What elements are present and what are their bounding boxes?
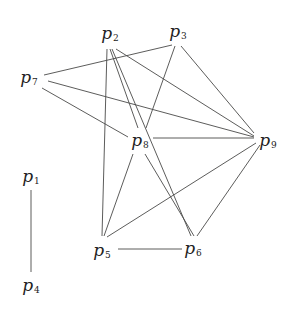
- graph-diagram: [0, 0, 295, 309]
- node-p1: p1: [22, 168, 40, 186]
- node-subscript: 2: [113, 33, 119, 43]
- node-letter: p: [93, 240, 104, 260]
- node-letter: p: [20, 67, 31, 87]
- node-letter: p: [259, 130, 270, 150]
- edge-p2-p9: [116, 49, 254, 136]
- edge-p3-p8: [146, 46, 175, 128]
- node-letter: p: [184, 238, 195, 258]
- node-p2: p2: [101, 25, 119, 43]
- node-letter: p: [131, 130, 142, 150]
- node-subscript: 7: [32, 77, 38, 87]
- node-p9: p9: [259, 132, 277, 150]
- node-letter: p: [169, 21, 180, 41]
- node-subscript: 8: [143, 140, 149, 150]
- node-subscript: 6: [196, 248, 202, 258]
- node-subscript: 9: [271, 140, 277, 150]
- node-p8: p8: [131, 132, 149, 150]
- edge-p6-p9: [197, 145, 260, 236]
- edge-p2-p8: [110, 49, 138, 128]
- edge-p7-p8: [42, 88, 128, 137]
- edge-p2-p6: [112, 49, 191, 236]
- edge-p7-p3: [44, 45, 172, 75]
- node-p3: p3: [169, 23, 187, 41]
- node-p7: p7: [20, 69, 38, 87]
- edge-p2-p5: [102, 49, 107, 236]
- node-subscript: 3: [181, 31, 187, 41]
- node-subscript: 1: [34, 176, 40, 186]
- node-subscript: 5: [105, 250, 111, 260]
- node-p6: p6: [184, 240, 202, 258]
- node-p5: p5: [93, 242, 111, 260]
- node-p4: p4: [22, 277, 40, 295]
- node-letter: p: [22, 275, 33, 295]
- node-letter: p: [101, 23, 112, 43]
- edge-p8-p6: [145, 154, 194, 236]
- edge-p5-p9: [107, 143, 256, 237]
- node-letter: p: [22, 166, 33, 186]
- node-subscript: 4: [34, 285, 40, 295]
